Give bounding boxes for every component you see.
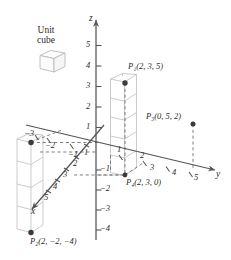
x-tick-2: 2 <box>73 159 77 168</box>
x-tick-5: 5 <box>44 193 48 202</box>
x-tick-3: 3 <box>63 170 67 179</box>
z-axis-label: z <box>89 14 93 24</box>
z-tick-neg2: −2 <box>100 184 110 193</box>
z-tick-neg4: −4 <box>100 224 110 233</box>
left-cube-stack <box>17 134 43 233</box>
point-left-stack-top <box>28 140 33 145</box>
x-axis-label: x <box>31 207 35 217</box>
x-tick-4: 4 <box>53 182 57 191</box>
figure-canvas: Unit cube z y x 1 2 3 4 5 −1 −2 −3 −4 1 … <box>0 0 231 260</box>
y-tick-neg3: −3 <box>24 129 34 138</box>
point-label-p2: P₂(2, −2, −4) <box>30 237 77 246</box>
z-tick-neg3: −3 <box>100 204 110 213</box>
z-tick-3: 3 <box>86 81 90 90</box>
y-tick-2: 2 <box>140 151 144 160</box>
dashed-projection-lines <box>31 83 193 175</box>
y-tick-4: 4 <box>172 168 176 177</box>
z-tick-4: 4 <box>86 61 90 70</box>
point-label-p4: P₄(2, 3, 0) <box>126 178 161 187</box>
y-tick-5: 5 <box>194 173 198 182</box>
axis-tick-marks <box>35 46 193 231</box>
point-markers <box>28 80 195 235</box>
point-p3 <box>191 122 196 127</box>
point-label-p3: P₃(0, 5, 2) <box>146 112 181 121</box>
z-tick-2: 2 <box>86 102 90 111</box>
z-tick-5: 5 <box>86 40 90 49</box>
y-tick-neg2: −2 <box>45 141 55 150</box>
right-cube-stack <box>111 74 137 176</box>
x-tick-1: 1 <box>84 148 88 157</box>
y-axis-label: y <box>216 170 220 180</box>
z-tick-1: 1 <box>86 122 90 131</box>
unit-cube-icon <box>40 51 65 73</box>
y-tick-3: 3 <box>150 163 154 172</box>
point-label-p1: P₁(2, 3, 5) <box>128 62 163 71</box>
z-tick-neg1: −1 <box>100 164 110 173</box>
point-p1 <box>122 80 127 85</box>
unit-cube-caption-line2: cube <box>24 36 68 46</box>
unit-cube-caption: Unit cube <box>24 26 68 46</box>
y-tick-1: 1 <box>117 145 121 154</box>
point-p2 <box>28 230 33 235</box>
